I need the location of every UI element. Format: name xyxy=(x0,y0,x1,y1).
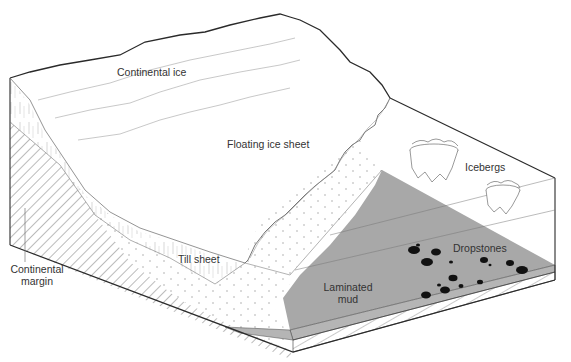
label-continental-margin-line1: Continental xyxy=(2,263,72,275)
label-laminated-mud-line1: Laminated xyxy=(317,281,379,293)
label-dropstones: Dropstones xyxy=(453,242,507,254)
label-continental-margin: Continental margin xyxy=(2,263,72,287)
ice-flow-lines xyxy=(38,38,300,140)
label-icebergs: Icebergs xyxy=(465,161,505,173)
ice-top-outline xyxy=(10,14,390,98)
label-continental-ice: Continental ice xyxy=(117,66,186,78)
iceberg-small xyxy=(486,181,520,215)
iceberg-large xyxy=(410,139,458,182)
label-laminated-mud-line2: mud xyxy=(317,293,379,305)
label-floating-ice-sheet: Floating ice sheet xyxy=(227,138,309,150)
glacial-block-diagram xyxy=(0,0,571,362)
label-continental-margin-line2: margin xyxy=(2,275,72,287)
label-till-sheet: Till sheet xyxy=(178,253,220,265)
label-laminated-mud: Laminated mud xyxy=(317,281,379,305)
